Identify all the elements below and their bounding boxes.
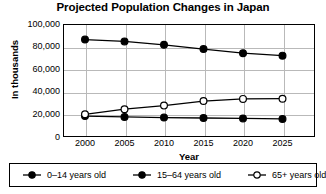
- legend-label: 15–64 years old: [157, 170, 221, 180]
- x-axis-title: Year: [63, 151, 315, 162]
- data-point-marker: [121, 106, 128, 113]
- x-axis-tick-label: 2015: [184, 139, 224, 148]
- filled-circle-line-icon: [132, 170, 152, 180]
- y-axis-tick-label: 0: [2, 133, 60, 142]
- data-point-marker: [279, 116, 286, 123]
- data-point-marker: [161, 41, 168, 48]
- legend-item: 15–64 years old: [132, 170, 221, 180]
- data-point-marker: [121, 38, 128, 45]
- series-2: [82, 36, 286, 59]
- chart-container: Projected Population Changes in Japan In…: [0, 0, 326, 194]
- series-layer: [63, 24, 315, 137]
- data-point-marker: [240, 115, 247, 122]
- y-axis-tick-label: 80,000: [2, 42, 60, 51]
- series-line: [85, 116, 283, 119]
- series-line: [85, 99, 283, 115]
- x-axis-tick-label: 2020: [223, 139, 263, 148]
- filled-circle-line-icon: [22, 170, 42, 180]
- legend-item: 0–14 years old: [22, 170, 106, 180]
- y-axis-tick-label: 20,000: [2, 110, 60, 119]
- data-point-marker: [240, 96, 247, 103]
- series-line: [85, 40, 283, 56]
- data-point-marker: [200, 115, 207, 122]
- data-point-marker: [121, 113, 128, 120]
- chart-title: Projected Population Changes in Japan: [0, 1, 326, 13]
- x-axis-tick-label: 2005: [105, 139, 145, 148]
- x-axis-tick-label: 2000: [65, 139, 105, 148]
- y-axis-tick-label: 40,000: [2, 87, 60, 96]
- chart-legend: 0–14 years old15–64 years old65+ years o…: [9, 163, 317, 187]
- data-point-marker: [82, 111, 89, 118]
- data-point-marker: [279, 95, 286, 102]
- x-axis-tick-label: 2010: [144, 139, 184, 148]
- series-1: [82, 113, 286, 123]
- legend-label: 65+ years old: [272, 170, 326, 180]
- data-point-marker: [161, 114, 168, 121]
- data-point-marker: [200, 46, 207, 53]
- x-axis-tick-label: 2025: [263, 139, 303, 148]
- y-axis-tick-label: 60,000: [2, 65, 60, 74]
- legend-item: 65+ years old: [247, 170, 326, 180]
- data-point-marker: [161, 102, 168, 109]
- data-point-marker: [279, 52, 286, 59]
- open-circle-line-icon: [247, 170, 267, 180]
- data-point-marker: [240, 50, 247, 57]
- data-point-marker: [82, 36, 89, 43]
- y-axis-ticks: 100,00080,00060,00040,00020,0000: [0, 24, 60, 137]
- y-axis-tick-label: 100,000: [2, 20, 60, 29]
- legend-label: 0–14 years old: [47, 170, 106, 180]
- series-3: [82, 95, 286, 117]
- data-point-marker: [200, 98, 207, 105]
